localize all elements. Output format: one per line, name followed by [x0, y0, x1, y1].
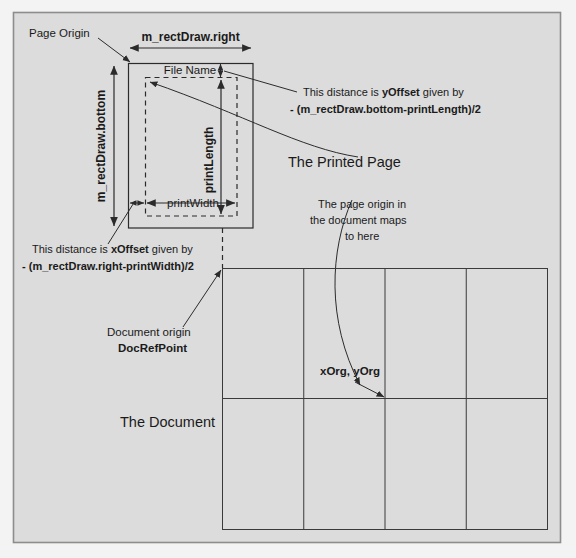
document-origin-label: Document origin: [107, 326, 191, 338]
xoffset-text-c: given by: [149, 243, 194, 255]
docrefpoint-label: DocRefPoint: [118, 342, 187, 354]
yoffset-text-b: yOffset: [382, 86, 420, 98]
file-name-label: File Name: [164, 64, 216, 76]
xoffset-text-b: xOffset: [111, 243, 149, 255]
printlength-label: printLength: [202, 127, 216, 194]
m-rectdraw-bottom-label: m_rectDraw.bottom: [94, 90, 108, 202]
page-origin-maps-line1: The page origin in: [318, 198, 406, 210]
page-origin-label: Page Origin: [29, 27, 90, 39]
xorg-yorg-label: xOrg, yOrg: [320, 365, 380, 377]
xoffset-annotation-line1: This distance is xOffset given by: [32, 243, 193, 255]
yoffset-text-a: This distance is: [303, 86, 382, 98]
diagram-canvas: Page Origin m_rectDraw.right m_rectDraw.…: [0, 0, 576, 558]
printed-page-label: The Printed Page: [288, 154, 401, 170]
m-rectdraw-right-label: m_rectDraw.right: [141, 30, 239, 44]
yoffset-annotation-line2: - (m_rectDraw.bottom-printLength)/2: [290, 103, 481, 115]
page-origin-maps-line2: the document maps: [310, 214, 407, 226]
page-origin-maps-line3: to here: [345, 230, 379, 242]
printwidth-label: printWidth: [167, 197, 219, 209]
yoffset-annotation-line1: This distance is yOffset given by: [303, 86, 464, 98]
xoffset-annotation-line2: - (m_rectDraw.right-printWidth)/2: [22, 260, 194, 272]
document-label: The Document: [120, 414, 215, 430]
xoffset-text-a: This distance is: [32, 243, 111, 255]
yoffset-text-c: given by: [420, 86, 465, 98]
